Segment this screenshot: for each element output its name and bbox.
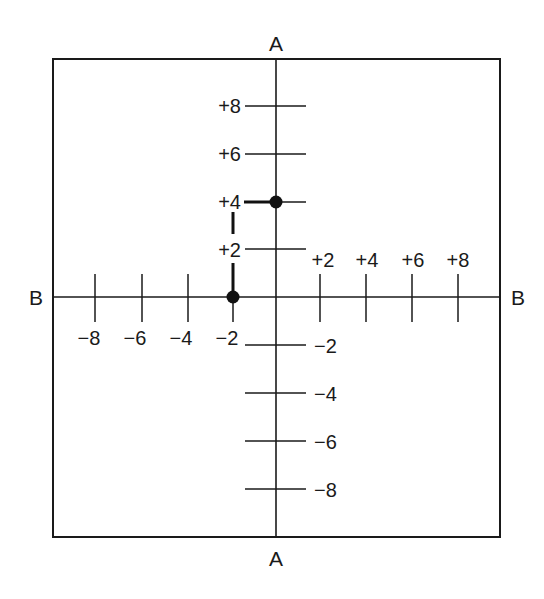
tick-label-a-minus6: −6 xyxy=(314,431,337,453)
tick-label-b-plus4: +4 xyxy=(356,249,379,271)
point-a-plus4 xyxy=(270,196,283,209)
tick-label-a-plus2: +2 xyxy=(218,239,241,261)
axis-b-right-label: B xyxy=(511,286,525,309)
tick-label-b-plus6: +6 xyxy=(402,249,425,271)
tick-label-b-plus8: +8 xyxy=(447,249,470,271)
tick-label-b-plus2: +2 xyxy=(312,249,335,271)
tick-label-b-minus4: −4 xyxy=(170,327,193,349)
axis-a-top-label: A xyxy=(269,32,283,55)
tick-label-a-plus8: +8 xyxy=(218,95,241,117)
tick-label-b-minus8: −8 xyxy=(78,327,101,349)
point-b-minus2 xyxy=(227,291,240,304)
coordinate-plane-diagram: A A B B +8 +6 +4 +2 −2 −4 −6 −8 −8 −6 −4… xyxy=(0,0,544,599)
tick-label-a-plus6: +6 xyxy=(218,143,241,165)
tick-label-a-minus4: −4 xyxy=(314,383,337,405)
tick-label-a-minus2: −2 xyxy=(314,335,337,357)
tick-label-a-plus4: +4 xyxy=(218,191,241,213)
horizontal-ticks-positive xyxy=(320,274,458,322)
tick-label-a-minus8: −8 xyxy=(314,479,337,501)
axis-b-left-label: B xyxy=(29,286,43,309)
axis-a-bottom-label: A xyxy=(269,547,283,570)
tick-label-b-minus2: −2 xyxy=(216,327,239,349)
tick-label-b-minus6: −6 xyxy=(124,327,147,349)
horizontal-ticks-negative xyxy=(95,274,233,322)
